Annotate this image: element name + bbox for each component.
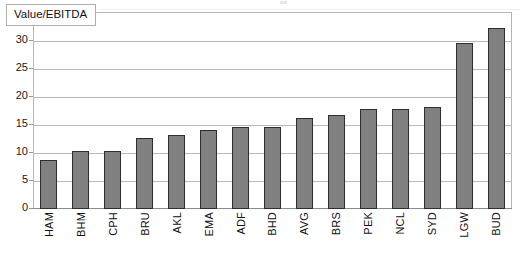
bar (488, 28, 505, 209)
bar (200, 130, 217, 209)
bar-chart: 05101520253035 Value/EBITDA HAMBHMCPHBRU… (0, 0, 524, 266)
bar (296, 118, 313, 209)
bars-layer (0, 0, 524, 266)
bar (424, 107, 441, 209)
bar (232, 127, 249, 209)
bar (328, 115, 345, 209)
bar (136, 138, 153, 209)
bar (168, 135, 185, 209)
bar (456, 43, 473, 209)
bar (392, 109, 409, 209)
bar (72, 151, 89, 209)
bar (40, 160, 57, 209)
bar (360, 109, 377, 209)
legend-series-label: Value/EBITDA (6, 4, 96, 26)
bar (104, 151, 121, 209)
bar (264, 127, 281, 209)
